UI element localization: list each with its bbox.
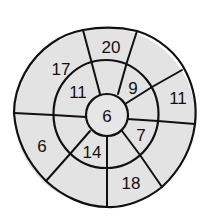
outer-ring-label-left: 6 [37,137,46,156]
outer-ring-label-bottom: 18 [122,174,141,193]
outer-ring-label-top: 20 [102,38,121,57]
inner-ring-label-lower-right: 7 [136,126,145,145]
bullseye-svg: 6 11 9 7 14 20 17 11 6 18 [0,0,210,220]
outer-ring-label-upper-left: 17 [52,60,71,79]
center-label: 6 [102,107,111,126]
bullseye-diagram: 6 11 9 7 14 20 17 11 6 18 [0,0,210,220]
inner-ring-label-upper-left: 11 [69,83,87,102]
outer-ring-label-right: 11 [169,89,187,108]
inner-ring-label-upper-right: 9 [128,79,137,98]
inner-ring-label-lower-left: 14 [83,143,102,162]
